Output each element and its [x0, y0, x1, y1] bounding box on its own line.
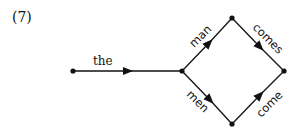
label-the: the — [93, 54, 113, 68]
node-end — [281, 68, 286, 73]
label-comes: comes — [250, 20, 287, 57]
label-men: men — [184, 87, 212, 115]
node-3 — [229, 121, 234, 126]
node-start — [70, 68, 75, 73]
node-1 — [179, 68, 184, 73]
state-diagram: the man comes men come — [0, 0, 301, 133]
label-come: come — [253, 88, 285, 120]
node-2 — [229, 15, 234, 20]
label-man: man — [186, 22, 214, 50]
